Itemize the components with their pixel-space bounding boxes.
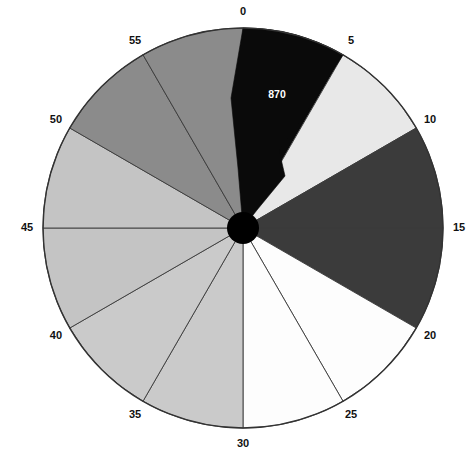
axis-tick-label-15: 15 [453, 221, 465, 233]
axis-tick-label-40: 40 [50, 329, 62, 341]
sector-value-label-0-to-5: 870 [268, 88, 286, 100]
polar-pie-chart: 0510152025303540455055 870 [0, 0, 476, 458]
axis-tick-label-45: 45 [21, 221, 33, 233]
axis-tick-label-0: 0 [240, 5, 246, 17]
axis-tick-label-50: 50 [50, 113, 62, 125]
axis-tick-label-20: 20 [424, 329, 436, 341]
center-hub-dot [227, 212, 259, 244]
data-value-labels-group: 870 [268, 88, 286, 100]
axis-tick-label-5: 5 [348, 34, 354, 46]
axis-tick-label-10: 10 [424, 113, 436, 125]
axis-tick-label-25: 25 [345, 408, 357, 420]
pie-chart-svg: 0510152025303540455055 870 [0, 0, 476, 458]
axis-tick-label-55: 55 [129, 34, 141, 46]
axis-tick-label-35: 35 [129, 408, 141, 420]
footer-caption [0, 448, 476, 458]
